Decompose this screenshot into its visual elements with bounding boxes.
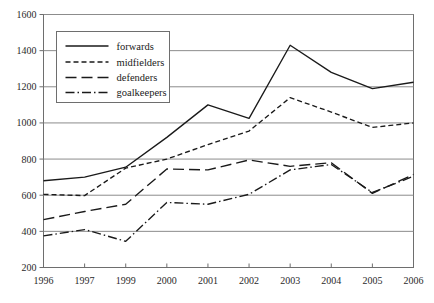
x-axis-tick-label: 1999	[116, 275, 136, 286]
x-axis-tick-label: 2006	[404, 275, 424, 286]
x-axis-tick-label: 2003	[280, 275, 300, 286]
x-axis-tick-label: 2005	[362, 275, 382, 286]
x-axis-tick-label: 2002	[239, 275, 259, 286]
x-axis-tick-label: 2004	[321, 275, 341, 286]
y-axis-tick-label: 800	[22, 154, 37, 165]
x-axis-tick-label: 1996	[34, 275, 54, 286]
series-line-goalkeepers	[44, 164, 414, 241]
y-axis-tick-label: 1400	[17, 45, 37, 56]
y-axis-tick-label: 200	[22, 262, 37, 273]
y-axis-tick-label: 400	[22, 226, 37, 237]
legend-label-midfielders: midfielders	[117, 57, 165, 68]
y-axis-tick-label: 1600	[17, 9, 37, 20]
y-axis-tick-label: 1200	[17, 81, 37, 92]
x-axis-tick-label: 2000	[157, 275, 177, 286]
y-axis-tick-label: 1000	[17, 117, 37, 128]
line-chart-figure: 2004006008001000120014001600199619971999…	[0, 0, 434, 303]
legend-label-goalkeepers: goalkeepers	[117, 87, 167, 98]
y-axis-tick-label: 600	[22, 190, 37, 201]
series-line-defenders	[44, 160, 414, 220]
legend-label-forwards: forwards	[117, 41, 154, 52]
chart-canvas: 2004006008001000120014001600199619971999…	[0, 0, 434, 303]
x-axis-tick-label: 2001	[198, 275, 218, 286]
legend-label-defenders: defenders	[117, 72, 158, 83]
x-axis-tick-label: 1997	[75, 275, 95, 286]
